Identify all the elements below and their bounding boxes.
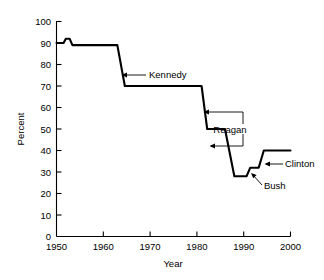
reagan-label: Reagan (213, 124, 246, 135)
x-ticks-group (103, 232, 290, 237)
annotation-kennedy: Kennedy (122, 69, 187, 80)
annotation-clinton: Clinton (265, 158, 315, 169)
y-tick-label-100: 100 (35, 16, 51, 27)
x-tick-label-1990: 1990 (233, 241, 254, 252)
y-tick-label-80: 80 (40, 59, 51, 70)
line-chart: 100 90 80 70 60 50 40 30 20 10 0 1950 19… (0, 0, 324, 280)
x-axis-title: Year (163, 258, 182, 269)
x-tick-label-1960: 1960 (93, 241, 114, 252)
bush-label: Bush (264, 180, 286, 191)
clinton-arrow-head (265, 162, 271, 167)
data-series-line (57, 39, 291, 177)
x-tick-label-1980: 1980 (186, 241, 207, 252)
y-tick-label-30: 30 (40, 167, 51, 178)
y-tick-label-70: 70 (40, 81, 51, 92)
axes-group (57, 21, 291, 237)
x-tick-label-1970: 1970 (140, 241, 161, 252)
x-tick-label-2000: 2000 (280, 241, 301, 252)
y-ticks-group (57, 22, 62, 216)
clinton-label: Clinton (285, 158, 315, 169)
chart-container: 100 90 80 70 60 50 40 30 20 10 0 1950 19… (0, 0, 324, 280)
y-tick-label-20: 20 (40, 188, 51, 199)
kennedy-label: Kennedy (149, 69, 187, 80)
y-tick-label-60: 60 (40, 102, 51, 113)
x-tick-label-1950: 1950 (46, 241, 67, 252)
annotation-bush: Bush (251, 173, 286, 191)
y-tick-label-40: 40 (40, 145, 51, 156)
y-tick-label-90: 90 (40, 38, 51, 49)
y-tick-label-50: 50 (40, 124, 51, 135)
bush-arrow-head (251, 173, 257, 178)
y-tick-labels-group: 100 90 80 70 60 50 40 30 20 10 0 (35, 16, 51, 242)
reagan-arrow-head-lower (210, 144, 216, 149)
x-tick-labels-group: 1950 1960 1970 1980 1990 2000 (46, 241, 301, 252)
y-tick-label-10: 10 (40, 210, 51, 221)
y-axis-title: Percent (15, 112, 26, 145)
